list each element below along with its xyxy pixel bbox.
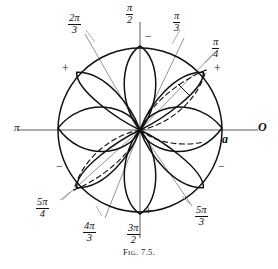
fraction-denominator: 3 [195,217,208,228]
ray-pi-over-4 [140,52,215,130]
fraction-numerator: 2π [68,13,81,25]
sign-upper-left: + [62,62,69,74]
axis-label-origin-O: O [258,121,267,133]
angle-label-pi-over-2: π 2 [126,3,133,26]
leader-2pi-over-3 [86,30,95,42]
fraction-denominator: 2 [126,15,133,26]
fraction-denominator: 4 [212,49,219,60]
leader-5pi-over-4 [60,192,70,200]
sign-lower-right: − [218,160,225,172]
fraction-denominator: 3 [173,23,180,34]
axis-label-radius-a: a [222,133,228,145]
angle-label-pi-over-4: π 4 [212,37,219,60]
fraction-numerator: 3π [127,223,140,235]
fraction-denominator: 3 [83,233,96,244]
sign-top-axis: − [145,30,152,42]
caption-ig: IG [128,249,136,257]
fraction-numerator: π [126,3,133,15]
fraction-numerator: 5π [195,205,208,217]
caption-number: . 7.5. [136,247,155,257]
angle-label-pi-over-3: π 3 [173,11,180,34]
fraction-numerator: 5π [36,197,49,209]
fraction-denominator: 4 [36,209,49,220]
sign-bottom-axis: + [145,205,152,217]
angle-label-4pi-over-3: 4π 3 [83,221,96,244]
angle-label-2pi-over-3: 2π 3 [68,13,81,36]
sign-lower-left: − [56,160,63,172]
sign-upper-right: + [214,62,221,74]
leader-4pi-over-3 [96,206,102,216]
angle-label-3pi-over-2: 3π 2 [127,223,140,246]
fraction-numerator: 4π [83,221,96,233]
angle-label-5pi-over-4: 5π 4 [36,197,49,220]
fraction-numerator: π [173,11,180,23]
figure-caption: FIG. 7.5. [0,247,278,257]
fraction-numerator: π [212,37,219,49]
figure-container: π 2 2π 3 π 3 π 4 5π 4 4π 3 [0,0,278,269]
tick-pi-over-4 [178,84,190,96]
fraction-denominator: 2 [127,235,140,246]
axis-label-pi: π [14,122,20,133]
angle-label-5pi-over-3: 5π 3 [195,205,208,228]
fraction-denominator: 3 [68,25,81,36]
